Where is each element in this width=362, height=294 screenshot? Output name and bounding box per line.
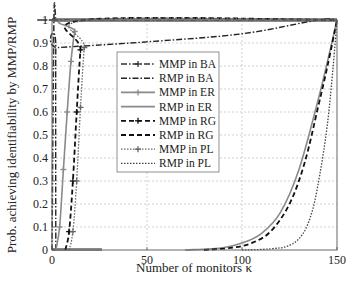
y-tick-label: 0.4: [33, 151, 48, 165]
legend-label: MMP in ER: [159, 86, 215, 98]
legend-label: RMP in PL: [159, 157, 211, 169]
legend-label: MMP in RG: [159, 115, 216, 127]
y-tick-label: 0.9: [33, 36, 48, 50]
legend: MMP in BARMP in BAMMP in ERRMP in ERMMP …: [117, 52, 219, 172]
y-tick-label: 0.5: [33, 128, 48, 142]
chart: 00.10.20.30.40.50.60.70.80.91 050100150 …: [0, 0, 362, 294]
y-tick-label: 0.6: [33, 105, 48, 119]
y-tick-label: 0.3: [33, 174, 48, 188]
y-tick-label: 0.2: [33, 197, 48, 211]
y-tick-label: 1: [42, 13, 48, 27]
legend-label: MMP in BA: [159, 58, 217, 70]
y-tick-label: 0.7: [33, 82, 48, 96]
legend-label: RMP in ER: [159, 101, 213, 113]
legend-label: MMP in PL: [159, 143, 214, 155]
x-axis-label: Number of monitors κ: [136, 260, 252, 275]
legend-label: RMP in BA: [159, 72, 214, 84]
x-tick-label: 0: [49, 253, 55, 267]
y-tick-label: 0.1: [33, 220, 48, 234]
legend-label: RMP in RG: [159, 129, 214, 141]
x-tick-label: 150: [328, 253, 346, 267]
y-tick-label: 0: [42, 243, 48, 257]
y-axis-label: Prob. achieving identifiability by MMP/R…: [4, 17, 19, 254]
y-tick-label: 0.8: [33, 59, 48, 73]
